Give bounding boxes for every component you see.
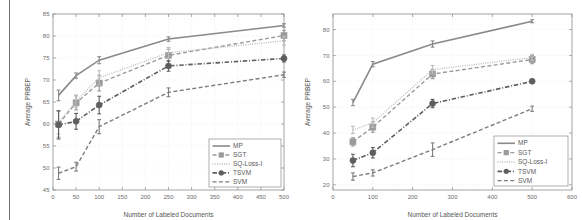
legend-label-tsvm: TSVM — [233, 169, 251, 176]
y-tick-label: 75 — [43, 55, 50, 61]
y-tick-label: 80 — [43, 33, 50, 39]
x-tick-label: 400 — [487, 194, 498, 200]
chart-svg-left-chart: 0501001502002503003504004505004550556065… — [20, 0, 292, 220]
series-sq-loss-i — [57, 36, 286, 134]
y-tick-label: 70 — [43, 77, 50, 83]
y-tick-label: 40 — [323, 130, 330, 136]
x-tick-label: 50 — [73, 194, 80, 200]
x-tick-label: 150 — [117, 194, 128, 200]
y-axis-title: Average PRBEP — [304, 78, 312, 126]
y-tick-label: 55 — [43, 143, 50, 149]
x-tick-label: 0 — [331, 194, 335, 200]
legend-label-mp: MP — [518, 139, 528, 146]
x-tick-label: 300 — [187, 194, 198, 200]
y-tick-label: 50 — [43, 165, 50, 171]
chart-panel-right: 010020030040050060020304050607080Number … — [300, 0, 582, 220]
y-tick-label: 60 — [43, 121, 50, 127]
legend-left-chart: MPSGTSQ-Loss-ITSVMSVM — [209, 139, 281, 187]
legend-label-tsvm: TSVM — [518, 168, 536, 175]
legend-label-sgt: SGT — [233, 151, 246, 158]
x-tick-label: 500 — [527, 194, 538, 200]
series-tsvm — [56, 55, 287, 139]
data-point-marker — [430, 101, 436, 107]
figure-page: 0501001502002503003504004505004550556065… — [0, 0, 582, 220]
plot-area-left: 0501001502002503003504004505004550556065… — [20, 0, 292, 220]
series-sgt — [56, 30, 287, 137]
y-tick-label: 85 — [43, 11, 50, 17]
x-tick-label: 450 — [256, 194, 267, 200]
y-tick-label: 20 — [323, 182, 330, 188]
data-point-marker — [529, 78, 535, 84]
plot-area-right: 010020030040050060020304050607080Number … — [300, 0, 582, 220]
y-axis-title: Average PRBEP — [24, 78, 32, 126]
legend-marker — [504, 150, 509, 155]
data-point-marker — [370, 150, 376, 156]
legend-label-sq-loss-i: SQ-Loss-I — [233, 160, 262, 168]
legend-label-svm: SVM — [518, 177, 532, 184]
chart-panel-left: 0501001502002503003504004505004550556065… — [20, 0, 292, 220]
x-axis-title: Number of Labeled Documents — [408, 211, 499, 218]
legend-label-svm: SVM — [233, 178, 247, 185]
x-tick-label: 300 — [447, 194, 458, 200]
x-tick-label: 200 — [408, 194, 419, 200]
data-point-marker — [281, 55, 287, 61]
legend-marker — [504, 169, 509, 174]
x-tick-label: 500 — [279, 194, 290, 200]
series-mp — [57, 24, 286, 101]
y-tick-label: 65 — [43, 99, 50, 105]
x-tick-label: 0 — [51, 194, 55, 200]
legend-label-sq-loss-i: SQ-Loss-I — [518, 158, 547, 166]
y-tick-label: 30 — [323, 156, 330, 162]
data-point-marker — [350, 139, 356, 145]
x-tick-label: 600 — [567, 194, 578, 200]
x-tick-label: 100 — [94, 194, 105, 200]
y-tick-label: 45 — [43, 187, 50, 193]
legend-label-sgt: SGT — [518, 149, 531, 156]
data-point-marker — [350, 157, 356, 163]
y-tick-label: 50 — [323, 104, 330, 110]
x-tick-label: 100 — [368, 194, 379, 200]
data-point-marker — [96, 102, 102, 108]
chart-svg-right-chart: 010020030040050060020304050607080Number … — [300, 0, 582, 220]
legend-marker — [219, 152, 224, 157]
data-point-marker — [73, 118, 79, 124]
y-tick-label: 60 — [323, 78, 330, 84]
y-tick-label: 80 — [323, 27, 330, 33]
legend-right-chart: MPSGTSQ-Loss-ITSVMSVM — [494, 136, 568, 186]
legend-label-mp: MP — [233, 142, 243, 149]
x-tick-label: 200 — [140, 194, 151, 200]
x-tick-label: 350 — [210, 194, 221, 200]
data-point-marker — [56, 122, 62, 128]
x-tick-label: 250 — [163, 194, 174, 200]
y-tick-label: 70 — [323, 53, 330, 59]
x-tick-label: 400 — [233, 194, 244, 200]
legend-marker — [219, 170, 224, 175]
page-left-rule — [9, 0, 10, 220]
x-axis-title: Number of Labeled Documents — [124, 211, 215, 218]
data-point-marker — [166, 63, 172, 69]
